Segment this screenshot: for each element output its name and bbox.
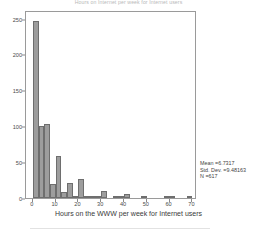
- bottom-divider: [30, 228, 210, 229]
- histogram-bar: [141, 196, 147, 198]
- y-axis-tick-mark: [22, 163, 25, 164]
- y-axis-tick-mark: [22, 127, 25, 128]
- x-axis-tick-mark: [32, 199, 33, 202]
- bars-layer: [26, 12, 195, 198]
- y-axis-tick-mark: [22, 91, 25, 92]
- stat-mean: Mean =6.7317: [200, 161, 246, 166]
- histogram-bar: [170, 196, 176, 198]
- x-axis-tick-mark: [191, 199, 192, 202]
- statistics-annotation: Mean =6.7317 Std. Dev. =9.48163 N =617: [200, 161, 246, 181]
- x-axis-tick-mark: [55, 199, 56, 202]
- x-axis-tick-mark: [169, 199, 170, 202]
- x-axis-tick-mark: [77, 199, 78, 202]
- plot-area: [25, 11, 196, 199]
- histogram-chart: Hours on Internet per week for Internet …: [0, 0, 257, 232]
- stat-n: N =617: [200, 174, 246, 179]
- histogram-bar: [187, 196, 193, 198]
- chart-title: Hours on Internet per week for Internet …: [0, 0, 257, 6]
- x-axis-tick-mark: [100, 199, 101, 202]
- histogram-bar: [101, 191, 107, 198]
- x-axis-tick-mark: [123, 199, 124, 202]
- x-axis-label: Hours on the WWW per week for Internet u…: [0, 210, 257, 217]
- y-axis-tick-mark: [22, 19, 25, 20]
- histogram-bar: [124, 194, 130, 198]
- y-axis-tick-mark: [22, 199, 25, 200]
- x-axis-tick-mark: [146, 199, 147, 202]
- y-axis-tick-mark: [22, 55, 25, 56]
